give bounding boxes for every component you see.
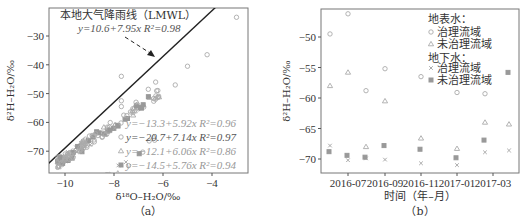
circle-marker — [57, 215, 61, 219]
circle-marker — [119, 135, 123, 139]
arrow-head-icon — [147, 50, 155, 57]
x-tick-label: 2016-07 — [330, 177, 367, 189]
circle-marker — [82, 194, 86, 198]
regression-equation: y=−12.1+6.06x R²=0.86 — [125, 145, 236, 157]
circle-marker — [57, 218, 61, 222]
y-tick-label: −30 — [27, 30, 45, 42]
square-marker — [93, 185, 97, 189]
square-marker — [62, 212, 66, 216]
x-axis-label: 时间（年–月） — [384, 189, 456, 203]
square-marker — [84, 201, 88, 205]
x-tick-label: −10 — [56, 177, 74, 189]
square-marker — [429, 78, 433, 82]
triangle-marker — [60, 219, 65, 223]
triangle-marker — [327, 83, 332, 87]
cross-marker — [328, 144, 332, 148]
square-marker — [86, 190, 90, 194]
square-marker — [506, 70, 510, 74]
y-tick-label: −65 — [299, 123, 317, 135]
circle-marker — [108, 120, 112, 124]
square-marker — [68, 205, 72, 209]
x-tick-label: −8 — [108, 177, 120, 189]
triangle-marker — [363, 144, 368, 148]
y-tick-label: −55 — [299, 62, 317, 74]
cross-marker — [102, 183, 106, 187]
circle-marker — [153, 80, 157, 84]
circle-marker — [185, 64, 189, 68]
y-tick-label: −60 — [299, 92, 317, 104]
panel-a-chart: −10−8−6−4−30−40−50−60−70δ¹⁸O–H₂O/‰δ²H–H₂… — [5, 0, 248, 223]
triangle-marker — [418, 136, 423, 140]
cross-marker — [100, 183, 104, 187]
circle-marker — [383, 67, 387, 71]
square-marker — [418, 147, 422, 151]
panel-label: （b） — [405, 205, 434, 218]
circle-marker — [119, 99, 123, 103]
legend: 地表水：治理流域未治理流域地下水：治理流域未治理流域 — [428, 12, 492, 87]
cross-marker — [80, 199, 84, 203]
y-tick-label: −50 — [27, 88, 45, 100]
triangle-marker — [56, 218, 61, 222]
y-tick-label: −40 — [27, 59, 45, 71]
cross-marker — [346, 158, 350, 162]
circle-marker — [64, 216, 68, 220]
triangle-marker — [345, 70, 350, 74]
circle-marker — [66, 212, 70, 216]
square-marker — [87, 190, 91, 194]
cross-marker — [56, 219, 60, 223]
circle-marker — [419, 74, 423, 78]
triangle-marker — [428, 41, 433, 45]
cross-marker — [96, 190, 100, 194]
square-marker — [363, 155, 367, 159]
legend-item: 治理流域 — [437, 25, 481, 39]
circle-marker — [146, 87, 150, 91]
y-tick-label: −50 — [299, 31, 317, 43]
circle-marker — [82, 197, 86, 201]
cross-marker — [85, 195, 89, 199]
lmwl-label: 本地大气降雨线（LMWL） — [60, 8, 196, 22]
x-tick-label: 2017-01 — [439, 177, 476, 189]
circle-marker — [58, 214, 62, 218]
triangle-marker — [55, 216, 60, 220]
square-marker — [345, 153, 349, 157]
circle-marker — [346, 12, 350, 16]
cross-marker — [429, 66, 433, 70]
triangle-marker — [454, 146, 459, 150]
lmwl-equation: y=10.6+7.95x R²=0.98 — [77, 22, 181, 34]
y-axis-label: δ²H–H₂O/‰ — [5, 60, 16, 121]
circle-marker — [56, 218, 60, 222]
legend-item: 治理流域 — [437, 61, 481, 75]
cross-marker — [507, 149, 511, 153]
figure-panels: −10−8−6−4−30−40−50−60−70δ¹⁸O–H₂O/‰δ²H–H₂… — [0, 0, 525, 223]
circle-marker — [234, 15, 238, 19]
x-tick-label: 2016-09 — [367, 177, 404, 189]
circle-marker — [102, 176, 106, 180]
circle-marker — [56, 221, 60, 223]
square-marker — [59, 215, 63, 219]
cross-marker — [419, 161, 423, 165]
circle-marker — [364, 88, 368, 92]
y-tick-label: −60 — [27, 116, 45, 128]
cross-marker — [455, 163, 459, 167]
triangle-marker — [97, 180, 102, 184]
panel-b-chart: 2016-072016-092016-112017-012017-03−50−5… — [281, 9, 519, 218]
triangle-marker — [84, 195, 89, 199]
circle-marker — [56, 218, 60, 222]
legend-item: 未治理流域 — [437, 73, 492, 87]
cross-marker — [383, 158, 387, 162]
circle-marker — [99, 187, 103, 191]
regression-equation: y=−14.5+5.76x R²=0.94 — [125, 159, 236, 171]
circle-marker — [63, 216, 67, 220]
cross-marker — [483, 150, 487, 154]
square-marker — [58, 156, 62, 160]
circle-marker — [483, 92, 487, 96]
x-tick-label: 2016-11 — [403, 177, 439, 189]
square-marker — [146, 95, 150, 99]
legend-group-title: 地表水： — [428, 12, 472, 26]
regression-equation: y=−20.7+7.14x R²=0.97 — [125, 131, 236, 143]
triangle-marker — [482, 120, 487, 124]
circle-marker — [173, 83, 177, 87]
legend-item: 未治理流域 — [437, 37, 492, 51]
circle-marker — [75, 207, 79, 211]
square-marker — [482, 138, 486, 142]
